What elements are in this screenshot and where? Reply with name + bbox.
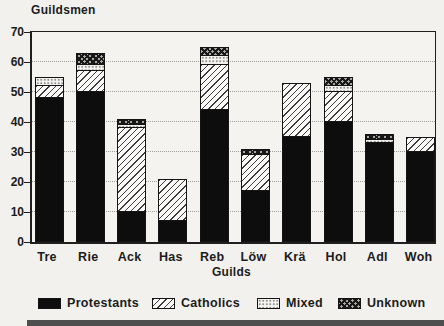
segment-protestants-Adl [365, 143, 394, 242]
legend-label-protestants: Protestants [67, 296, 139, 310]
legend-label-mixed: Mixed [286, 296, 323, 310]
bar-Ack [117, 119, 146, 242]
bar-Woh [406, 137, 435, 242]
x-tick-label-Hol: Hol [316, 250, 356, 264]
segment-protestants-Löw [241, 191, 270, 242]
x-tick-label-Has: Has [151, 250, 191, 264]
bottom-border-band [27, 320, 444, 326]
dark-crosshatch-swatch-icon [338, 298, 361, 309]
x-tick-label-Krä: Krä [275, 250, 315, 264]
segment-catholics-Löw [241, 155, 270, 191]
segment-unknown-Rie [76, 53, 105, 65]
y-tick-label-20: 20 [0, 174, 24, 190]
chart-title: Guildsmen [31, 3, 96, 17]
bar-Löw [241, 149, 270, 242]
bar-Adl [365, 134, 394, 242]
segment-catholics-Rie [76, 71, 105, 92]
segment-protestants-Woh [406, 152, 435, 242]
segment-catholics-Krä [282, 83, 311, 137]
legend-item-protestants: Protestants [38, 296, 139, 310]
y-tick-label-70: 70 [0, 24, 24, 40]
y-tick-label-10: 10 [0, 204, 24, 220]
x-tick-label-Reb: Reb [192, 250, 232, 264]
legend-label-catholics: Catholics [181, 296, 240, 310]
solid-black-swatch-icon [38, 298, 61, 309]
x-axis-title: Guilds [30, 265, 433, 279]
segment-protestants-Tre [35, 98, 64, 242]
legend-label-unknown: Unknown [367, 296, 425, 310]
y-tick-label-0: 0 [0, 234, 24, 250]
segment-catholics-Ack [117, 128, 146, 212]
x-tick-label-Woh: Woh [399, 250, 439, 264]
x-tick-label-Tre: Tre [27, 250, 67, 264]
legend-item-catholics: Catholics [152, 296, 240, 310]
segment-protestants-Has [158, 221, 187, 242]
segment-protestants-Ack [117, 212, 146, 242]
x-tick-label-Ack: Ack [110, 250, 150, 264]
segment-catholics-Hol [324, 92, 353, 122]
bar-Hol [324, 77, 353, 242]
light-dots-swatch-icon [257, 298, 280, 309]
segment-protestants-Rie [76, 92, 105, 242]
bar-Reb [200, 47, 229, 242]
bar-Rie [76, 53, 105, 242]
plot-area [30, 31, 436, 244]
x-tick-label-Löw: Löw [234, 250, 274, 264]
segment-mixed-Tre [35, 77, 64, 86]
legend-item-unknown: Unknown [338, 296, 425, 310]
y-tick-label-40: 40 [0, 114, 24, 130]
segment-catholics-Tre [35, 86, 64, 98]
segment-catholics-Woh [406, 137, 435, 152]
bar-Has [158, 179, 187, 242]
y-tick-label-50: 50 [0, 84, 24, 100]
segment-protestants-Reb [200, 110, 229, 242]
bar-Krä [282, 83, 311, 242]
segment-catholics-Has [158, 179, 187, 221]
segment-unknown-Hol [324, 77, 353, 86]
x-tick-label-Adl: Adl [357, 250, 397, 264]
chart-figure: Guildsmen 010203040506070 TreRieAckHasRe… [0, 0, 444, 326]
segment-protestants-Hol [324, 122, 353, 242]
segment-mixed-Reb [200, 56, 229, 65]
y-tick-label-60: 60 [0, 54, 24, 70]
segment-unknown-Reb [200, 47, 229, 56]
bar-Tre [35, 77, 64, 242]
segment-protestants-Krä [282, 137, 311, 242]
x-tick-label-Rie: Rie [68, 250, 108, 264]
legend: ProtestantsCatholicsMixedUnknown [0, 296, 444, 314]
y-tick-label-30: 30 [0, 144, 24, 160]
diagonal-hatch-swatch-icon [152, 298, 175, 309]
segment-catholics-Reb [200, 65, 229, 110]
legend-item-mixed: Mixed [257, 296, 323, 310]
